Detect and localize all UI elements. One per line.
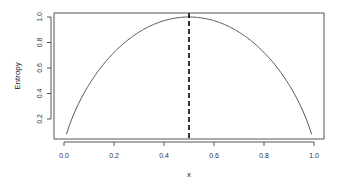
- plot-area: [67, 13, 312, 139]
- x-tick-label: 0.6: [209, 152, 219, 159]
- entropy-chart: 0.00.20.40.60.81.0 0.20.40.60.81.0 x Ent…: [0, 0, 339, 190]
- x-tick-label: 0.8: [259, 152, 269, 159]
- y-tick-label: 0.2: [36, 114, 43, 124]
- x-axis: 0.00.20.40.60.81.0: [59, 142, 319, 159]
- y-tick-label: 0.8: [36, 38, 43, 48]
- x-tick-label: 0.0: [59, 152, 69, 159]
- x-tick-label: 0.2: [109, 152, 119, 159]
- x-tick-label: 0.4: [159, 152, 169, 159]
- y-tick-label: 0.6: [36, 63, 43, 73]
- y-axis: 0.20.40.60.81.0: [36, 12, 51, 124]
- x-tick-label: 1.0: [309, 152, 319, 159]
- x-axis-title: x: [187, 170, 191, 179]
- y-axis-title: Entropy: [13, 62, 22, 90]
- y-tick-label: 1.0: [36, 12, 43, 22]
- y-tick-label: 0.4: [36, 89, 43, 99]
- entropy-curve: [67, 17, 312, 134]
